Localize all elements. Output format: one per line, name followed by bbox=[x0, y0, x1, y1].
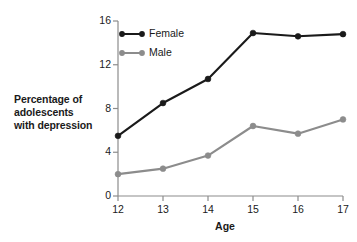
legend-label-female[interactable]: Female bbox=[149, 27, 184, 39]
data-point-male-13 bbox=[160, 166, 166, 172]
x-tick-label: 17 bbox=[330, 203, 356, 215]
x-tick-label: 13 bbox=[150, 203, 176, 215]
chart-legend bbox=[119, 31, 145, 56]
data-point-female-13 bbox=[160, 100, 166, 106]
data-point-male-17 bbox=[340, 117, 346, 123]
y-tick-label: 0 bbox=[89, 189, 111, 201]
y-tick-label: 16 bbox=[89, 14, 111, 26]
data-point-male-14 bbox=[205, 153, 211, 159]
x-axis-title: Age bbox=[180, 220, 270, 232]
data-point-male-15 bbox=[250, 123, 256, 129]
data-point-female-14 bbox=[205, 76, 211, 82]
y-axis-ticks bbox=[113, 21, 118, 196]
data-point-female-16 bbox=[295, 33, 301, 39]
y-axis-title-line-3: with depression bbox=[14, 119, 109, 132]
legend-swatch-marker-female bbox=[139, 31, 145, 37]
legend-swatch-marker-male bbox=[119, 50, 125, 56]
data-point-female-17 bbox=[340, 31, 346, 37]
legend-swatch-marker-male bbox=[139, 50, 145, 56]
data-point-female-12 bbox=[115, 133, 121, 139]
x-tick-label: 16 bbox=[285, 203, 311, 215]
depression-by-age-line-chart: Percentage of adolescents with depressio… bbox=[0, 0, 357, 242]
data-point-male-16 bbox=[295, 131, 301, 137]
x-tick-label: 14 bbox=[195, 203, 221, 215]
data-point-male-12 bbox=[115, 171, 121, 177]
y-tick-label: 8 bbox=[89, 102, 111, 114]
y-tick-label: 12 bbox=[89, 58, 111, 70]
x-tick-label: 12 bbox=[105, 203, 131, 215]
data-point-female-15 bbox=[250, 30, 256, 36]
legend-swatch-marker-female bbox=[119, 31, 125, 37]
series-line-male bbox=[118, 119, 343, 174]
x-tick-label: 15 bbox=[240, 203, 266, 215]
y-tick-label: 4 bbox=[89, 145, 111, 157]
x-axis-ticks bbox=[118, 196, 343, 201]
legend-label-male[interactable]: Male bbox=[149, 46, 172, 58]
